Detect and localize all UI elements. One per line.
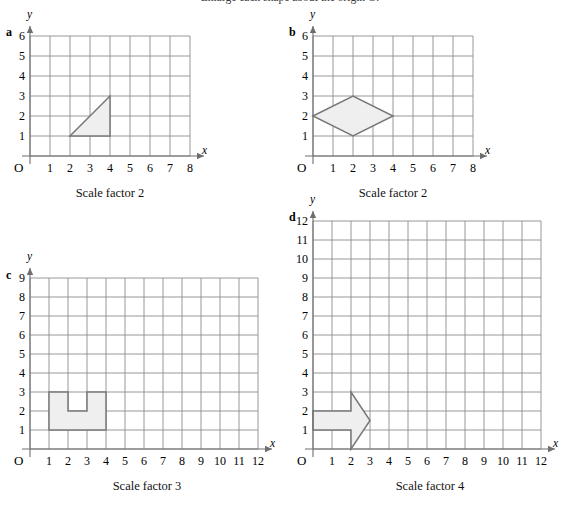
y-tick-b-4: 4	[290, 70, 308, 82]
y-tick-c-6: 6	[7, 329, 25, 341]
worksheet-page: Enlarge each shape about the origin O. a…	[0, 0, 563, 505]
x-tick-a-1: 1	[39, 162, 61, 174]
y-tick-b-5: 5	[290, 50, 308, 62]
grid-a	[22, 22, 222, 172]
x-tick-b-8: 8	[462, 162, 484, 174]
instruction-text: Enlarge each shape about the origin O.	[60, 0, 520, 3]
x-tick-b-2: 2	[342, 162, 364, 174]
x-tick-d-12: 12	[530, 455, 552, 467]
x-tick-a-4: 4	[99, 162, 121, 174]
origin-label-c: O	[14, 453, 23, 469]
y-tick-c-4: 4	[7, 367, 25, 379]
grid-lines	[313, 36, 473, 156]
caption-c: Scale factor 3	[113, 479, 182, 494]
x-tick-a-3: 3	[79, 162, 101, 174]
y-axis-label-b: y	[310, 8, 315, 20]
x-tick-b-1: 1	[322, 162, 344, 174]
y-tick-d-7: 7	[290, 310, 308, 322]
caption-b: Scale factor 2	[359, 186, 428, 201]
x-tick-b-4: 4	[382, 162, 404, 174]
y-tick-b-2: 2	[290, 110, 308, 122]
y-tick-d-12: 12	[290, 215, 308, 227]
y-tick-d-9: 9	[290, 272, 308, 284]
y-tick-c-3: 3	[7, 386, 25, 398]
x-tick-c-12: 12	[247, 455, 269, 467]
y-tick-a-5: 5	[7, 50, 25, 62]
x-tick-b-7: 7	[442, 162, 464, 174]
x-axis-label-a: x	[202, 144, 207, 156]
y-tick-c-9: 9	[7, 272, 25, 284]
grid-c	[22, 264, 290, 465]
y-axis-arrowhead	[27, 26, 33, 33]
y-axis-label-d: y	[310, 193, 315, 205]
y-tick-d-6: 6	[290, 329, 308, 341]
y-tick-b-1: 1	[290, 130, 308, 142]
y-tick-c-7: 7	[7, 310, 25, 322]
origin-label-a: O	[14, 160, 23, 176]
x-tick-a-5: 5	[119, 162, 141, 174]
origin-label-d: O	[297, 453, 306, 469]
y-axis-arrowhead	[27, 268, 33, 275]
y-axis-arrowhead	[310, 211, 316, 218]
x-tick-a-2: 2	[59, 162, 81, 174]
y-tick-d-5: 5	[290, 348, 308, 360]
x-tick-b-5: 5	[402, 162, 424, 174]
y-tick-a-1: 1	[7, 130, 25, 142]
y-tick-d-3: 3	[290, 386, 308, 398]
y-tick-b-3: 3	[290, 90, 308, 102]
origin-label-b: O	[297, 160, 306, 176]
shape-rhombus	[313, 96, 393, 136]
y-tick-a-6: 6	[7, 30, 25, 42]
x-tick-a-7: 7	[159, 162, 181, 174]
y-tick-c-8: 8	[7, 291, 25, 303]
y-tick-d-4: 4	[290, 367, 308, 379]
x-axis-label-d: x	[553, 437, 558, 449]
y-tick-a-3: 3	[7, 90, 25, 102]
grid-b	[305, 22, 505, 172]
shape-u-shape	[49, 392, 106, 430]
x-tick-b-3: 3	[362, 162, 384, 174]
x-tick-a-6: 6	[139, 162, 161, 174]
y-tick-b-6: 6	[290, 30, 308, 42]
y-tick-a-4: 4	[7, 70, 25, 82]
y-tick-c-1: 1	[7, 424, 25, 436]
y-tick-c-5: 5	[7, 348, 25, 360]
x-axis-label-c: x	[270, 437, 275, 449]
y-tick-d-11: 11	[290, 234, 308, 246]
y-tick-a-2: 2	[7, 110, 25, 122]
y-axis-label-a: y	[27, 8, 32, 20]
y-tick-d-10: 10	[290, 253, 308, 265]
y-axis-label-c: y	[27, 250, 32, 262]
caption-a: Scale factor 2	[76, 186, 145, 201]
y-axis-arrowhead	[310, 26, 316, 33]
y-tick-c-2: 2	[7, 405, 25, 417]
grid-d	[305, 207, 563, 465]
shape-right-arrow	[313, 392, 370, 449]
y-tick-d-8: 8	[290, 291, 308, 303]
x-axis-label-b: x	[485, 144, 490, 156]
x-tick-a-8: 8	[179, 162, 201, 174]
y-tick-d-2: 2	[290, 405, 308, 417]
y-tick-d-1: 1	[290, 424, 308, 436]
x-tick-b-6: 6	[422, 162, 444, 174]
caption-d: Scale factor 4	[396, 479, 465, 494]
